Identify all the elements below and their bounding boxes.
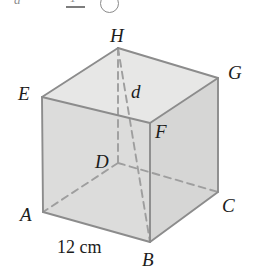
diagonal-label-d: d xyxy=(131,82,141,101)
figure-page: a 1 xyxy=(0,0,257,276)
cube-figure xyxy=(0,0,257,276)
edge-dimension-label: 12 cm xyxy=(57,238,102,256)
vertex-label-C: C xyxy=(222,196,235,215)
cube-edge-EA xyxy=(42,97,43,212)
vertex-label-B: B xyxy=(142,250,154,269)
vertex-label-F: F xyxy=(155,122,167,141)
vertex-label-G: G xyxy=(228,63,242,82)
vertex-label-E: E xyxy=(18,84,30,103)
vertex-label-D: D xyxy=(95,152,109,171)
vertex-label-H: H xyxy=(110,26,124,45)
vertex-label-A: A xyxy=(20,205,32,224)
